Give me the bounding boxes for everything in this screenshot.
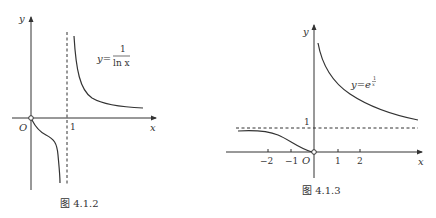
x-tick-minus2-label: −2	[260, 156, 273, 166]
y-axis-label: y	[18, 13, 25, 24]
curve-right-branch	[74, 36, 143, 108]
x-tick-minus1-label: −1	[285, 156, 298, 166]
open-point-origin	[312, 150, 317, 155]
svg-text:y=e: y=e	[350, 79, 371, 90]
x-tick-1-label: 1	[70, 122, 76, 132]
function-label: y= 1 ln x	[96, 44, 130, 68]
curve-left-branch	[32, 120, 60, 183]
x-tick-2-label: 2	[357, 156, 363, 166]
svg-text:y=: y=	[96, 53, 111, 64]
x-tick-1-label: 1	[335, 156, 341, 166]
figure-4-1-3: y x O −2 −1 1 2 1 y=e 1 x	[226, 25, 424, 178]
origin-label: O	[302, 155, 310, 166]
svg-text:x: x	[372, 81, 375, 87]
y-tick-1-label: 1	[304, 117, 310, 127]
curve-left-branch	[238, 131, 312, 152]
x-axis-label: x	[150, 122, 156, 133]
svg-text:ln x: ln x	[113, 58, 130, 68]
figure-4-1-2: y x O 1 y= 1 ln x	[12, 13, 156, 190]
function-label: y=e 1 x	[350, 75, 376, 90]
figure-caption-4-1-3: 图 4.1.3	[302, 182, 341, 197]
y-axis-label: y	[302, 26, 309, 37]
svg-text:1: 1	[120, 44, 126, 54]
open-point-origin	[29, 116, 34, 121]
charts-canvas: y x O 1 y= 1 ln x y x O −2 −1 1 2 1	[0, 0, 436, 218]
figure-caption-4-1-2: 图 4.1.2	[60, 195, 99, 210]
x-axis-label: x	[418, 156, 424, 167]
origin-label: O	[19, 122, 27, 133]
